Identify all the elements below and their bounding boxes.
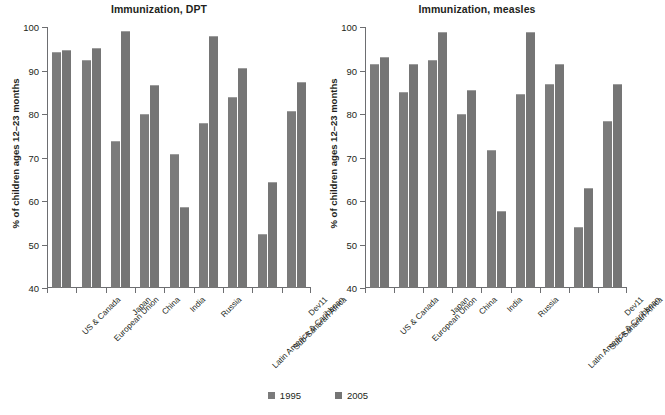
y-axis-tick-label: 70	[28, 152, 39, 163]
x-axis-tick	[135, 288, 136, 293]
bar-1995-china	[457, 114, 466, 288]
y-axis-tick-label: 40	[346, 283, 357, 294]
bar-1995-dev11	[603, 121, 612, 288]
x-axis-tick	[310, 288, 311, 293]
y-axis-tick-label: 80	[28, 109, 39, 120]
legend-swatch-icon	[335, 392, 342, 399]
y-axis-tick-label: 40	[28, 283, 39, 294]
x-axis-tick	[223, 288, 224, 293]
bar-1995-japan	[111, 141, 120, 288]
bar-2005-us-canada	[62, 50, 71, 288]
chart-panel-dpt: Immunization, DPT % of children ages 12–…	[0, 0, 318, 380]
bar-1995-latin-america-caribbean	[545, 84, 554, 288]
bar-1995-sub-saharan-africa	[574, 227, 583, 288]
bar-1995-china	[140, 114, 149, 288]
chart-title-dpt: Immunization, DPT	[0, 3, 318, 15]
chart-legend: 19952005	[0, 390, 636, 401]
bar-2005-india	[180, 207, 189, 288]
bar-2005-sub-saharan-africa	[268, 182, 277, 288]
plot-area-dpt: 405060708090100US & CanadaEuropean Union…	[47, 27, 311, 288]
x-axis-label: India	[505, 295, 524, 314]
x-axis-tick	[511, 288, 512, 293]
legend-item-1995[interactable]: 1995	[268, 390, 301, 401]
bar-1995-sub-saharan-africa	[258, 234, 267, 288]
bar-1995-us-canada	[370, 64, 379, 288]
y-axis-tick	[42, 201, 47, 202]
bar-1995-japan	[428, 60, 437, 288]
x-axis-tick	[423, 288, 424, 293]
y-axis-tick-label: 100	[341, 22, 357, 33]
y-axis-label-measles: % of children ages 12–23 months	[328, 54, 339, 254]
bar-2005-india	[497, 211, 506, 288]
bar-2005-dev11	[613, 84, 622, 288]
x-axis-tick	[76, 288, 77, 293]
y-axis-tick	[42, 245, 47, 246]
x-axis-tick	[164, 288, 165, 293]
y-axis-tick	[360, 114, 365, 115]
bar-1995-european-union	[399, 92, 408, 288]
y-axis-tick-label: 90	[346, 65, 357, 76]
x-axis-label: Russia	[536, 295, 560, 319]
x-axis-label: India	[188, 295, 207, 314]
x-axis-tick	[452, 288, 453, 293]
y-axis-tick	[360, 27, 365, 28]
bar-1995-us-canada	[52, 52, 61, 288]
x-axis-label: US & Canada	[398, 295, 440, 337]
x-axis-tick	[598, 288, 599, 293]
y-axis-tick	[360, 201, 365, 202]
x-axis-tick	[540, 288, 541, 293]
y-axis-tick	[42, 71, 47, 72]
plot-area-measles: 405060708090100US & CanadaEuropean Union…	[365, 27, 627, 288]
bar-1995-european-union	[82, 60, 91, 288]
x-axis-tick	[47, 288, 48, 293]
y-axis-tick	[360, 71, 365, 72]
y-axis-tick	[360, 158, 365, 159]
bar-2005-russia	[209, 36, 218, 288]
bar-2005-russia	[526, 32, 535, 288]
x-axis-tick	[106, 288, 107, 293]
x-axis-tick	[569, 288, 570, 293]
bar-2005-sub-saharan-africa	[584, 188, 593, 288]
x-axis-tick	[365, 288, 366, 293]
x-axis-label: China	[477, 295, 499, 317]
y-axis-tick	[42, 114, 47, 115]
bar-2005-japan	[438, 32, 447, 288]
bar-2005-european-union	[409, 64, 418, 288]
bar-2005-latin-america-caribbean	[555, 64, 564, 288]
bar-2005-us-canada	[380, 57, 389, 288]
x-axis-label: US & Canada	[80, 295, 122, 337]
y-axis-tick-label: 50	[346, 239, 357, 250]
x-axis-tick	[282, 288, 283, 293]
y-axis-tick-label: 60	[28, 196, 39, 207]
x-axis-tick	[481, 288, 482, 293]
x-axis-label: China	[160, 295, 182, 317]
y-axis-tick	[360, 245, 365, 246]
bar-2005-dev11	[297, 82, 306, 288]
y-axis-line	[47, 27, 48, 288]
x-axis-label: Russia	[220, 295, 244, 319]
x-axis-tick	[194, 288, 195, 293]
y-axis-tick-label: 80	[346, 109, 357, 120]
x-axis-tick	[394, 288, 395, 293]
bar-2005-european-union	[92, 48, 101, 288]
chart-panel-measles: Immunization, measles % of children ages…	[318, 0, 636, 380]
x-axis-tick	[252, 288, 253, 293]
y-axis-line	[365, 27, 366, 288]
bar-1995-russia	[199, 123, 208, 288]
y-axis-tick-label: 50	[28, 239, 39, 250]
bar-2005-china	[467, 90, 476, 288]
bar-2005-china	[150, 85, 159, 288]
x-axis-tick	[626, 288, 627, 293]
y-axis-tick-label: 60	[346, 196, 357, 207]
legend-item-2005[interactable]: 2005	[335, 390, 368, 401]
bar-1995-latin-america-caribbean	[228, 97, 237, 288]
bar-2005-japan	[121, 31, 130, 288]
bar-1995-russia	[516, 94, 525, 288]
chart-title-measles: Immunization, measles	[318, 3, 636, 15]
y-axis-tick-label: 70	[346, 152, 357, 163]
y-axis-tick	[42, 27, 47, 28]
legend-label: 1995	[280, 390, 301, 401]
bar-2005-latin-america-caribbean	[238, 68, 247, 288]
legend-swatch-icon	[268, 392, 275, 399]
